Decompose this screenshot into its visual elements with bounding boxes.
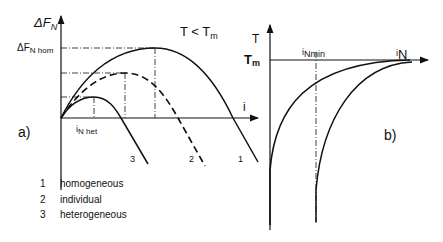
curve-1-number: 1 [238, 154, 243, 164]
panel-a: ΔFN T < Tm ΔFN hom i iN het a) 3 2 1 [17, 15, 258, 190]
curve-3-number: 3 [130, 154, 135, 164]
guide-lines-a [61, 48, 155, 118]
legend-item: 1homogeneous [40, 176, 127, 192]
legend: 1homogeneous 2individual 3heterogeneous [40, 176, 127, 223]
curve-2-individual [61, 73, 205, 166]
x-axis-label-b: iN [396, 47, 407, 62]
y-axis-label-a: ΔFN [33, 15, 58, 32]
panel-a-label: a) [18, 124, 30, 140]
legend-text: heterogeneous [60, 207, 127, 223]
legend-item: 3heterogeneous [40, 207, 127, 223]
tm-label: Tm [244, 52, 260, 68]
curve-b-right [316, 62, 412, 222]
y-marker-label-hom: ΔFN hom [17, 42, 54, 55]
panel-b: T Tm iNmin iN b) [244, 25, 428, 230]
legend-num: 1 [40, 176, 60, 192]
x-marker-label-het: iN het [76, 124, 98, 136]
legend-item: 2individual [40, 192, 127, 208]
curve-1-homogeneous [61, 48, 258, 162]
y-axis-label-b: T [252, 32, 260, 46]
legend-num: 3 [40, 207, 60, 223]
panel-b-label: b) [384, 127, 396, 143]
legend-text: homogeneous [60, 176, 123, 192]
legend-num: 2 [40, 192, 60, 208]
x-marker-label-nmin: iNmin [302, 47, 325, 59]
condition-label: T < Tm [180, 24, 218, 41]
x-axis-label-a: i [243, 100, 246, 114]
legend-text: individual [60, 192, 102, 208]
curve-2-number: 2 [189, 154, 194, 164]
